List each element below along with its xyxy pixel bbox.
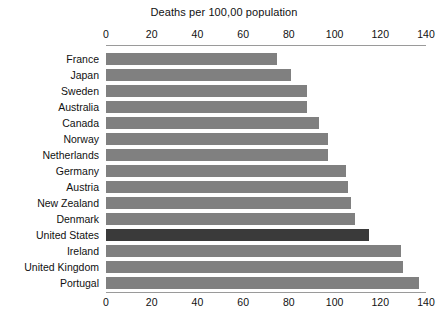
bar [106,117,319,129]
bar-row: Portugal [0,275,448,291]
x-tick-label: 140 [417,296,435,309]
category-label: Australia [0,99,99,115]
x-tick-label: 120 [372,28,390,41]
x-tick-label: 60 [237,296,249,309]
bar-row: Austria [0,179,448,195]
x-tick-label: 100 [326,296,344,309]
bar [106,213,355,225]
category-label: Norway [0,131,99,147]
bar [106,85,307,97]
bar-row: Japan [0,67,448,83]
bar-row: Netherlands [0,147,448,163]
x-axis-line-bottom [106,292,426,293]
category-label: Canada [0,115,99,131]
category-label: Ireland [0,243,99,259]
bar [106,261,403,273]
bar [106,181,348,193]
category-label: Denmark [0,211,99,227]
bar-row: New Zealand [0,195,448,211]
category-label: United States [0,227,99,243]
bar-row: Ireland [0,243,448,259]
bar [106,197,351,209]
bar-row: France [0,51,448,67]
x-tick-label: 20 [146,28,158,41]
plot-area: FranceJapanSwedenAustraliaCanadaNorwayNe… [0,46,448,292]
bar [106,277,419,289]
bar-row: Australia [0,99,448,115]
x-tick-label: 20 [146,296,158,309]
bar [106,69,291,81]
x-tick-label: 40 [192,28,204,41]
category-label: Sweden [0,83,99,99]
x-tick-label: 40 [192,296,204,309]
x-tick-label: 80 [283,28,295,41]
x-axis-ticks-top: 020406080100120140 [0,28,448,41]
x-axis-ticks-bottom: 020406080100120140 [0,296,448,309]
bar [106,101,307,113]
x-tick-label: 120 [372,296,390,309]
category-label: Germany [0,163,99,179]
bar-row: Canada [0,115,448,131]
x-tick-label: 140 [417,28,435,41]
chart-title: Deaths per 100,00 population [0,6,448,18]
x-tick-label: 100 [326,28,344,41]
bar-row: Germany [0,163,448,179]
x-tick-label: 80 [283,296,295,309]
bar [106,245,401,257]
bar-row: United States [0,227,448,243]
category-label: Netherlands [0,147,99,163]
category-label: United Kingdom [0,259,99,275]
bar-row: Sweden [0,83,448,99]
x-tick-label: 0 [103,296,109,309]
category-label: Austria [0,179,99,195]
bar-row: Norway [0,131,448,147]
category-label: New Zealand [0,195,99,211]
bar [106,149,328,161]
bar [106,133,328,145]
bar [106,165,346,177]
category-label: France [0,51,99,67]
x-tick-label: 60 [237,28,249,41]
category-label: Portugal [0,275,99,291]
bar [106,229,369,241]
bar-row: Denmark [0,211,448,227]
x-tick-label: 0 [103,28,109,41]
category-label: Japan [0,67,99,83]
bar-row: United Kingdom [0,259,448,275]
bar [106,53,277,65]
bar-chart-figure: Deaths per 100,00 population 02040608010… [0,0,448,318]
